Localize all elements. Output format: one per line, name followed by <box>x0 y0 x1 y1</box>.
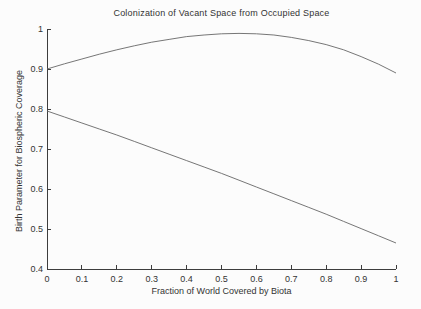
upper-curve <box>47 33 396 73</box>
plot-area <box>0 0 421 309</box>
chart-figure: Colonization of Vacant Space from Occupi… <box>0 0 421 309</box>
y-tick-label: 0.7 <box>30 144 43 154</box>
axes-line <box>47 29 396 269</box>
x-tick-label: 0.6 <box>250 274 263 284</box>
y-tick-label: 0.9 <box>30 64 43 74</box>
x-tick-label: 0.7 <box>285 274 298 284</box>
y-tick-label: 0.5 <box>30 224 43 234</box>
x-tick-label: 0.8 <box>320 274 333 284</box>
y-tick-label: 0.4 <box>30 264 43 274</box>
x-tick-label: 0.2 <box>111 274 124 284</box>
x-tick-label: 0 <box>44 274 49 284</box>
x-tick-label: 0.9 <box>355 274 368 284</box>
x-tick-label: 0.1 <box>76 274 89 284</box>
lower-curve <box>47 111 396 243</box>
y-tick-label: 1 <box>38 24 43 34</box>
x-tick-label: 0.3 <box>145 274 158 284</box>
x-tick-label: 0.4 <box>180 274 193 284</box>
y-tick-label: 0.8 <box>30 104 43 114</box>
x-tick-label: 1 <box>393 274 398 284</box>
x-tick-label: 0.5 <box>215 274 228 284</box>
y-tick-label: 0.6 <box>30 184 43 194</box>
